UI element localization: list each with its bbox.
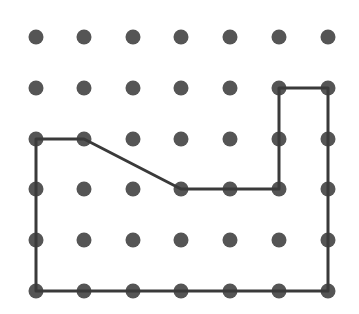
grid-dot	[272, 30, 287, 45]
grid-dot	[77, 182, 92, 197]
grid-dot	[174, 30, 189, 45]
grid-dot	[272, 233, 287, 248]
grid-dot	[77, 81, 92, 96]
grid-dot	[223, 30, 238, 45]
grid-dot	[126, 132, 141, 147]
grid-dot	[223, 81, 238, 96]
grid-canvas	[0, 0, 359, 314]
grid-dot	[126, 182, 141, 197]
grid-dot	[174, 132, 189, 147]
grid-dot	[77, 233, 92, 248]
grid-dot	[126, 81, 141, 96]
grid-dot	[29, 30, 44, 45]
grid-dot	[223, 132, 238, 147]
grid-dot	[29, 81, 44, 96]
dot-grid-diagram	[0, 0, 359, 314]
grid-dot	[321, 30, 336, 45]
grid-dot	[126, 233, 141, 248]
grid-dot	[126, 30, 141, 45]
grid-dot	[174, 81, 189, 96]
grid-dots	[29, 30, 336, 299]
grid-dot	[77, 30, 92, 45]
grid-dot	[174, 233, 189, 248]
grid-dot	[223, 233, 238, 248]
